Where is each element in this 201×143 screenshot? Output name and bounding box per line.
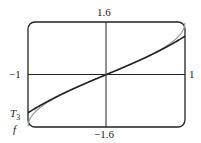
y-max-label: 1.6 bbox=[97, 6, 111, 18]
t3-label: T3 bbox=[10, 107, 20, 122]
f-label: f bbox=[13, 123, 16, 135]
x-max-label: 1 bbox=[189, 68, 195, 80]
t3-label-sub: 3 bbox=[16, 113, 20, 122]
y-min-label: −1.6 bbox=[94, 128, 114, 140]
plot-area bbox=[0, 0, 201, 143]
x-min-label: −1 bbox=[9, 68, 21, 80]
